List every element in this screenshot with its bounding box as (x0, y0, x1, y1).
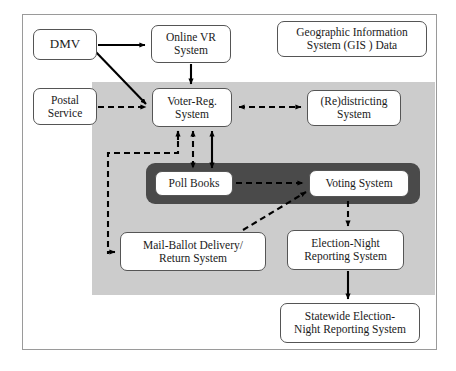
node-gis-data[interactable]: Geographic Information System (GIS ) Dat… (277, 21, 427, 57)
node-poll-books[interactable]: Poll Books (155, 171, 233, 196)
node-voter-reg-system[interactable]: Voter-Reg. System (152, 88, 232, 127)
node-mail-ballot-delivery-return-system[interactable]: Mail-Ballot Delivery/ Return System (120, 232, 266, 271)
node-statewide-election-night-reporting-system[interactable]: Statewide Election- Night Reporting Syst… (280, 303, 420, 343)
node-postal-service[interactable]: Postal Service (33, 88, 97, 125)
diagram-root: DMV Online VR System Geographic Informat… (0, 0, 456, 371)
node-election-night-reporting-system[interactable]: Election-Night Reporting System (287, 230, 404, 270)
node-redistricting-system[interactable]: (Re)districting System (307, 90, 401, 126)
node-dmv[interactable]: DMV (33, 29, 97, 60)
node-voting-system[interactable]: Voting System (309, 170, 409, 197)
node-online-vr-system[interactable]: Online VR System (151, 25, 231, 63)
